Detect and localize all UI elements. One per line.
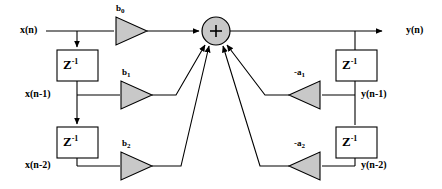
amplifier-a1[interactable] [289, 81, 320, 109]
gain-label-a1: -a1 [294, 68, 305, 77]
gain-label-b2: b2 [122, 139, 131, 148]
input-label: x(n) [20, 25, 37, 35]
wire-b2-to-sum [152, 46, 209, 166]
delay-text-x-2: Z-1 [63, 134, 78, 150]
delay-text-x-1: Z-1 [63, 57, 78, 73]
amplifier-b1[interactable] [121, 81, 152, 109]
amplifier-a2[interactable] [289, 152, 320, 180]
gain-label-b0: b0 [116, 4, 125, 13]
amplifier-b2[interactable] [121, 152, 152, 180]
signal-label-yn2: y(n-2) [361, 160, 387, 170]
delay-text-y-2: Z-1 [342, 134, 357, 150]
wire-a2-to-sum [223, 46, 289, 166]
output-label: y(n) [406, 25, 423, 35]
signal-label-xn2: x(n-2) [25, 160, 51, 170]
signal-label-yn1: y(n-1) [361, 89, 387, 99]
amplifier-b0[interactable] [116, 17, 147, 45]
gain-label-a2: -a2 [294, 139, 305, 148]
gain-label-b1: b1 [122, 68, 131, 77]
signal-label-xn1: x(n-1) [25, 89, 51, 99]
delay-text-y-1: Z-1 [342, 57, 357, 73]
diagram-canvas: x(n) y(n) x(n-1) x(n-2) y(n-1) y(n-2) b0… [0, 0, 442, 189]
wire-b1-to-sum [152, 45, 205, 95]
